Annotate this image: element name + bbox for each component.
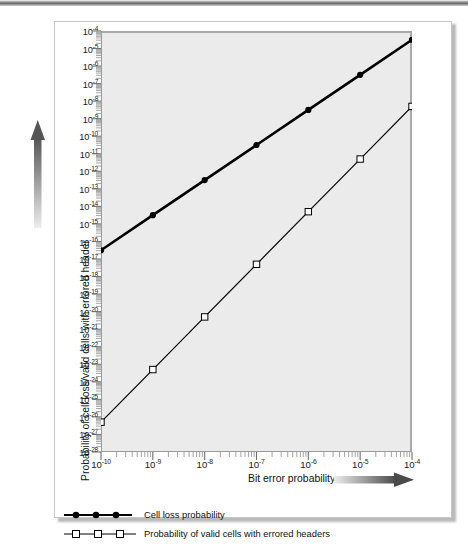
series-marker: [150, 366, 156, 372]
x-tick-label: 10-4: [390, 458, 434, 470]
legend-label-cell-loss: Cell loss probability: [144, 509, 225, 520]
chart-page: 10-410-510-610-710-810-910-1010-1110-121…: [0, 0, 468, 554]
series-marker: [150, 212, 156, 218]
x-tick-label: 10-9: [131, 458, 175, 470]
series-marker: [305, 208, 311, 214]
y-axis-title: Probability of cell loss/valid cells wit…: [80, 211, 91, 511]
legend-label-valid-cells: Probability of valid cells with errored …: [144, 528, 330, 539]
x-tick-label: 10-8: [183, 458, 227, 470]
series-marker: [409, 103, 412, 109]
legend-item-cell-loss: Cell loss probability: [62, 505, 402, 524]
x-axis-gradient-arrow-icon: [334, 472, 414, 487]
series-marker: [202, 177, 208, 183]
x-axis-title: Bit error probability: [248, 473, 335, 484]
plot-canvas: [101, 31, 412, 452]
series-marker: [253, 261, 259, 267]
series-marker: [253, 142, 259, 148]
series-marker: [305, 107, 311, 113]
legend-marker-open-square-icon: [62, 527, 140, 541]
x-tick-label: 10-7: [235, 458, 279, 470]
legend-item-valid-cells: Probability of valid cells with errored …: [62, 524, 402, 543]
series-marker: [357, 156, 363, 162]
x-tick-label: 10-5: [338, 458, 382, 470]
chart-legend: Cell loss probability Probability of val…: [62, 505, 402, 543]
x-tick-label: 10-6: [286, 458, 330, 470]
series-marker: [357, 72, 363, 78]
legend-marker-filled-circle-icon: [62, 508, 140, 522]
y-axis-gradient-arrow-icon: [30, 120, 45, 228]
plot-wrapper: 10-410-510-610-710-810-910-1010-1110-121…: [0, 0, 468, 554]
series-marker: [101, 419, 104, 425]
series-marker: [201, 314, 207, 320]
